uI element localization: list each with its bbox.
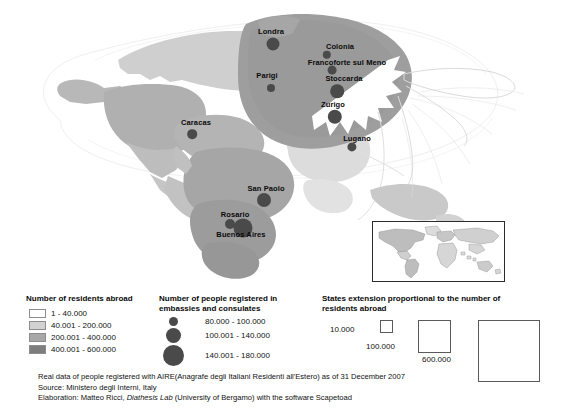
caption-line-3-post: (University of Bergamo) with the softwar… bbox=[173, 393, 352, 402]
legend-bubble-label: 140.001 - 180.000 bbox=[205, 351, 270, 360]
legend-color-swatch bbox=[29, 345, 46, 354]
city-dot bbox=[187, 129, 197, 139]
city-label: Londra bbox=[258, 27, 284, 36]
legend-bubble-label: 80.000 - 100.000 bbox=[205, 317, 266, 326]
legend-residents-row: 200.001 - 400.000 bbox=[29, 333, 116, 342]
legend-embassies-title-line2: embassies and consulates bbox=[159, 304, 260, 314]
map-figure: LondraColoniaFrancoforte sul MenoParigiS… bbox=[0, 0, 565, 416]
city-label: Parigi bbox=[256, 71, 277, 80]
legend-residents-title: Number of residents abroad bbox=[26, 294, 133, 304]
legend-residents-row: 400.001 - 600.000 bbox=[29, 345, 116, 354]
city-label: San Paolo bbox=[247, 184, 284, 193]
legend-residents-row: 1 - 40.000 bbox=[29, 309, 87, 318]
inset-world-map bbox=[372, 221, 505, 282]
legend-range-label: 400.001 - 600.000 bbox=[51, 345, 116, 354]
caption-line-2: Source: Ministero degli Interni, Italy bbox=[38, 383, 538, 394]
legend-color-swatch bbox=[29, 333, 46, 342]
legend-embassies-title-line1: Number of people registered in bbox=[159, 294, 277, 304]
city-label: Lugano bbox=[343, 134, 371, 143]
city-label: Stoccarda bbox=[325, 74, 362, 83]
cartogram-distortion-threads bbox=[402, 88, 524, 198]
legend-bubble-label: 100.001 - 140.000 bbox=[205, 331, 270, 340]
city-label: Francoforte sul Meno bbox=[308, 58, 386, 67]
city-label: Buenos Aires bbox=[216, 230, 265, 239]
city-label: Rosario bbox=[221, 210, 250, 219]
legend-residents-row: 40.001 - 200.000 bbox=[29, 321, 112, 330]
legend-squares-title-line2: residents abroad bbox=[322, 304, 386, 314]
city-dot bbox=[330, 84, 344, 98]
legend-range-label: 200.001 - 400.000 bbox=[51, 333, 116, 342]
legend-bubble-symbol bbox=[166, 328, 181, 343]
legend-squares-title-line1: States extension proportional to the num… bbox=[322, 294, 500, 304]
legend-square-symbol bbox=[380, 320, 393, 333]
legend-square-label: 600.000 bbox=[422, 355, 451, 364]
legend-color-swatch bbox=[29, 321, 46, 330]
city-label: Colonia bbox=[326, 42, 354, 51]
legend-color-swatch bbox=[29, 309, 46, 318]
city-dot bbox=[257, 193, 271, 207]
legend-bubble-symbol bbox=[163, 345, 184, 366]
city-label: Caracas bbox=[181, 118, 211, 127]
legend-range-label: 1 - 40.000 bbox=[51, 309, 87, 318]
city-label: Zurigo bbox=[321, 100, 345, 109]
legend-square-symbol bbox=[418, 320, 451, 353]
legend-bubble-symbol bbox=[169, 317, 178, 326]
city-dot bbox=[267, 84, 275, 92]
caption-line-3-pre: Elaboration: Matteo Ricci, bbox=[38, 393, 127, 402]
caption-line-1: Real data of people registered with AIRE… bbox=[38, 372, 538, 383]
figure-caption: Real data of people registered with AIRE… bbox=[38, 372, 538, 404]
city-dot bbox=[267, 38, 280, 51]
caption-line-3: Elaboration: Matteo Ricci, Diathesis Lab… bbox=[38, 393, 538, 404]
legend-square-label: 100.000 bbox=[366, 342, 395, 351]
legend-square-label: 10.000 bbox=[330, 325, 354, 334]
legend-range-label: 40.001 - 200.000 bbox=[51, 321, 112, 330]
caption-line-3-italic: Diathesis Lab bbox=[127, 393, 173, 402]
